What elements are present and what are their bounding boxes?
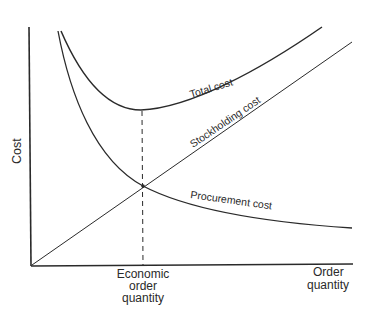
eoq-label-line3: quantity [122,291,164,305]
x-axis-label-line1: Order [313,265,344,279]
total-cost-label: Total cost [188,75,234,99]
intersection-point [141,184,145,188]
x-axis-label-line2: quantity [307,278,349,292]
y-axis [29,27,31,266]
eoq-diagram: Total cost Stockholding cost Procurement… [0,0,374,315]
y-axis-label: Cost [10,138,24,164]
stockholding-cost-label: Stockholding cost [187,94,262,150]
x-axis [31,264,353,266]
stockholding-cost-line [32,42,352,265]
